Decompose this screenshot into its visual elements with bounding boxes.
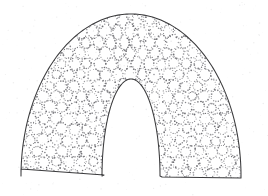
figure-canvas bbox=[0, 0, 268, 196]
arch-figure-svg bbox=[0, 0, 268, 196]
